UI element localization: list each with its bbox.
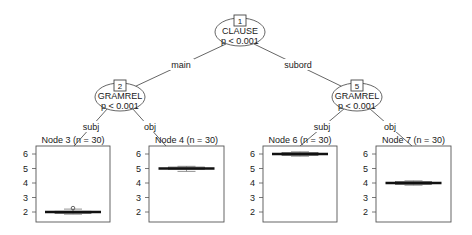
y-tick-label: 3	[23, 193, 28, 203]
y-tick-label: 5	[363, 164, 368, 174]
inner-node-5: 5 GRAMREL p < 0.001	[332, 80, 382, 111]
edge-label-subj-2: subj	[83, 122, 100, 132]
node-pvalue-1: p < 0.001	[221, 36, 259, 46]
terminal-node-title: Node 7 (n = 30)	[382, 135, 445, 145]
inner-node-2: 2 GRAMREL p < 0.001	[95, 80, 145, 111]
decision-tree: main subord subj obj subj obj 1 CLAUSE p…	[0, 0, 472, 235]
y-tick-label: 4	[363, 178, 368, 188]
y-tick-label: 6	[250, 149, 255, 159]
terminal-node-title: Node 6 (n = 30)	[269, 135, 332, 145]
y-tick-label: 2	[250, 207, 255, 217]
node-variable-2: GRAMREL	[98, 91, 143, 101]
y-tick-label: 4	[136, 178, 141, 188]
y-tick-label: 5	[136, 164, 141, 174]
y-tick-label: 4	[23, 178, 28, 188]
terminal-node-7: Node 7 (n = 30)23456	[363, 135, 451, 222]
inner-node-1: 1 CLAUSE p < 0.001	[215, 15, 265, 46]
node-variable-5: GRAMREL	[335, 91, 380, 101]
terminal-node-4: Node 4 (n = 30)23456	[136, 135, 224, 222]
y-axis: 23456	[250, 149, 263, 217]
plot-frame	[263, 146, 337, 222]
terminal-node-title: Node 3 (n = 30)	[42, 135, 105, 145]
y-tick-label: 4	[250, 178, 255, 188]
terminal-nodes: Node 3 (n = 30)23456Node 4 (n = 30)23456…	[23, 135, 451, 222]
node-id-5: 5	[355, 82, 360, 91]
y-tick-label: 6	[363, 149, 368, 159]
node-variable-1: CLAUSE	[222, 26, 258, 36]
y-tick-label: 5	[23, 164, 28, 174]
y-tick-label: 2	[23, 207, 28, 217]
node-pvalue-5: p < 0.001	[338, 101, 376, 111]
y-tick-label: 3	[136, 193, 141, 203]
y-tick-label: 5	[250, 164, 255, 174]
node-id-1: 1	[238, 17, 243, 26]
y-axis: 23456	[363, 149, 376, 217]
y-tick-label: 2	[136, 207, 141, 217]
terminal-node-6: Node 6 (n = 30)23456	[250, 135, 337, 222]
plot-frame	[149, 146, 224, 222]
terminal-node-3: Node 3 (n = 30)23456	[23, 135, 110, 222]
node-pvalue-2: p < 0.001	[101, 101, 139, 111]
node-id-2: 2	[118, 82, 123, 91]
y-axis: 23456	[136, 149, 149, 217]
y-tick-label: 3	[363, 193, 368, 203]
edge-label-obj-5: obj	[384, 122, 396, 132]
terminal-node-title: Node 4 (n = 30)	[155, 135, 218, 145]
y-axis: 23456	[23, 149, 36, 217]
edge-label-subord: subord	[284, 60, 312, 70]
y-tick-label: 6	[23, 149, 28, 159]
y-tick-label: 6	[136, 149, 141, 159]
y-tick-label: 2	[363, 207, 368, 217]
edge-label-obj-2: obj	[144, 122, 156, 132]
y-tick-label: 3	[250, 193, 255, 203]
edge-label-subj-5: subj	[314, 122, 331, 132]
edge-label-main: main	[171, 60, 191, 70]
